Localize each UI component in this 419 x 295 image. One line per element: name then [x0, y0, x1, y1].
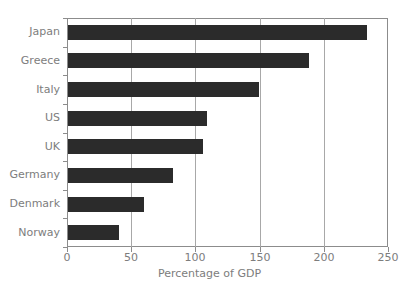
y-axis-label-greece: Greece	[0, 55, 60, 66]
bar	[68, 168, 173, 183]
y-axis-label-uk: UK	[0, 141, 60, 152]
bar	[68, 197, 144, 212]
x-axis-tick-label-100: 100	[175, 252, 215, 263]
y-axis-tick	[63, 75, 67, 76]
y-axis-tick	[63, 218, 67, 219]
y-axis-label-germany: Germany	[0, 169, 60, 180]
y-axis-tick	[63, 190, 67, 191]
x-axis-tick-label-0: 0	[47, 252, 87, 263]
bar-chart: JapanGreeceItalyUSUKGermanyDenmarkNorway…	[0, 0, 419, 295]
y-axis-label-italy: Italy	[0, 84, 60, 95]
y-axis-tick	[63, 104, 67, 105]
bar	[68, 25, 367, 40]
bar	[68, 82, 259, 97]
gridline-200	[324, 18, 325, 247]
y-axis-label-japan: Japan	[0, 26, 60, 37]
bar	[68, 111, 207, 126]
x-axis-tick-label-50: 50	[111, 252, 151, 263]
x-axis-tick-label-150: 150	[240, 252, 280, 263]
y-axis-tick	[63, 18, 67, 19]
x-axis-tick-label-250: 250	[368, 252, 408, 263]
y-axis-tick	[63, 161, 67, 162]
y-axis-tick	[63, 47, 67, 48]
x-axis-title: Percentage of GDP	[0, 268, 419, 279]
y-axis-tick	[63, 133, 67, 134]
bar	[68, 53, 309, 68]
x-axis-tick-label-200: 200	[304, 252, 344, 263]
bar	[68, 225, 119, 240]
bar	[68, 139, 203, 154]
y-axis-label-us: US	[0, 112, 60, 123]
y-axis-label-denmark: Denmark	[0, 198, 60, 209]
y-axis-label-norway: Norway	[0, 227, 60, 238]
